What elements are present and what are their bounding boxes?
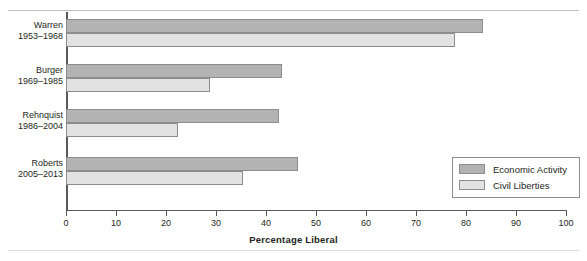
group-label-roberts: Roberts2005–2013 (18, 158, 63, 180)
figure-caption (0, 0, 587, 9)
group-label-burger: Burger1969–1985 (18, 65, 63, 87)
legend-swatch-icon (459, 180, 485, 190)
bar-civil-liberties (66, 33, 455, 47)
bar-economic-activity (66, 157, 298, 171)
legend-item-label: Civil Liberties (493, 180, 550, 191)
x-axis-tick (516, 211, 517, 216)
bar-economic-activity (66, 109, 279, 123)
group-label-years: 1953–1968 (18, 31, 63, 42)
chart-legend: Economic Activity Civil Liberties (452, 157, 580, 198)
x-axis-tick (166, 211, 167, 216)
legend-item-label: Economic Activity (493, 164, 567, 175)
bar-civil-liberties (66, 78, 210, 92)
x-axis-title: Percentage Liberal (0, 234, 587, 245)
bar-civil-liberties (66, 123, 178, 137)
group-label-name: Burger (18, 65, 63, 76)
group-label-years: 1986–2004 (18, 121, 63, 132)
x-axis-tick (566, 211, 567, 216)
bar-economic-activity (66, 64, 282, 78)
x-axis-tick-label: 20 (161, 218, 171, 228)
group-label-name: Rehnquist (18, 110, 63, 121)
x-axis-tick-label: 100 (558, 218, 573, 228)
x-axis-tick-label: 10 (111, 218, 121, 228)
x-axis-tick-label: 30 (211, 218, 221, 228)
x-axis-tick (316, 211, 317, 216)
x-axis-tick (66, 211, 67, 216)
x-axis-tick (416, 211, 417, 216)
group-label-years: 1969–1985 (18, 76, 63, 87)
x-axis-tick (366, 211, 367, 216)
x-axis-tick-label: 70 (411, 218, 421, 228)
x-axis-tick-label: 90 (511, 218, 521, 228)
x-axis-tick (466, 211, 467, 216)
bar-economic-activity (66, 19, 483, 33)
x-axis-tick-label: 40 (261, 218, 271, 228)
legend-item-civil-liberties: Civil Liberties (459, 178, 574, 192)
group-label-name: Roberts (18, 158, 63, 169)
group-label-years: 2005–2013 (18, 169, 63, 180)
caption-divider (8, 10, 579, 11)
x-axis-tick (216, 211, 217, 216)
group-label-warren: Warren1953–1968 (18, 20, 63, 42)
group-label-name: Warren (18, 20, 63, 31)
x-axis-tick-label: 60 (361, 218, 371, 228)
x-axis-tick-label: 50 (311, 218, 321, 228)
group-label-rehnquist: Rehnquist1986–2004 (18, 110, 63, 132)
x-axis-tick-label: 0 (63, 218, 68, 228)
figure-bottom-divider (8, 250, 579, 251)
legend-swatch-icon (459, 164, 485, 174)
legend-item-economic-activity: Economic Activity (459, 162, 574, 176)
x-axis-tick (116, 211, 117, 216)
x-axis-tick (266, 211, 267, 216)
bar-civil-liberties (66, 171, 243, 185)
x-axis-tick-label: 80 (461, 218, 471, 228)
bar-chart-figure: 0102030405060708090100 Warren1953–1968Bu… (0, 0, 587, 261)
